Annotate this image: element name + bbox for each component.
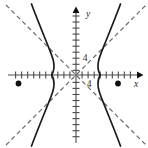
right-focus-dot xyxy=(115,81,121,87)
y-tick-label-4: 4 xyxy=(83,53,88,63)
x-tick-label-4: 4 xyxy=(87,79,92,89)
y-axis-arrowhead xyxy=(73,7,80,14)
left-focus-dot xyxy=(16,81,22,87)
x-axis-arrowhead xyxy=(137,72,144,79)
hyperbola-plot: x y 4 4 xyxy=(0,0,148,148)
hyperbola-figure: x y 4 4 xyxy=(0,0,148,148)
x-axis-label: x xyxy=(133,79,139,89)
y-axis-label: y xyxy=(85,9,91,19)
